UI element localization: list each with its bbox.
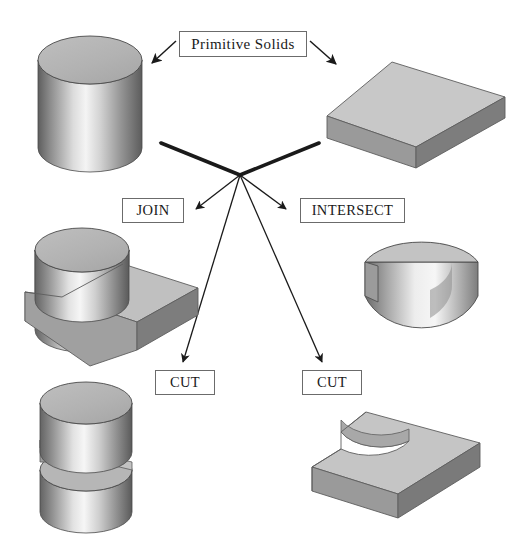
result-join-shape	[25, 228, 198, 366]
result-cut-box-shape	[312, 412, 480, 518]
label-join: JOIN	[122, 198, 184, 223]
hub-input-links	[161, 143, 319, 175]
label-primitive-solids: Primitive Solids	[179, 31, 307, 57]
label-cut-left: CUT	[155, 370, 215, 395]
diagram-graphics	[0, 0, 523, 547]
label-intersect: INTERSECT	[300, 198, 405, 223]
result-cut-cylinder-shape	[40, 382, 132, 533]
label-cut-right: CUT	[302, 370, 362, 395]
csg-diagram-canvas: Primitive Solids JOIN INTERSECT CUT CUT	[0, 0, 523, 547]
result-intersect-shape	[365, 242, 478, 328]
primitive-cylinder-shape	[38, 36, 142, 172]
primitive-box-shape	[327, 62, 505, 168]
